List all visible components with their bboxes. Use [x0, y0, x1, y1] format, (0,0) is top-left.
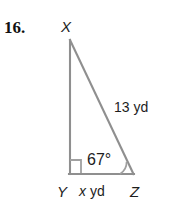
vertex-label-x: X — [61, 19, 71, 34]
vertex-label-y: Y — [57, 184, 67, 199]
base-unit-text: yd — [90, 183, 105, 199]
vertex-label-z: Z — [130, 184, 139, 199]
problem-figure-page: 16. X Y Z 13 yd x yd 67° — [0, 0, 169, 217]
base-length-label: x yd — [79, 184, 105, 198]
base-variable: x — [79, 183, 86, 199]
problem-number: 16. — [4, 19, 25, 36]
angle-arc-icon — [120, 162, 127, 174]
angle-measure-label: 67° — [87, 152, 111, 168]
hypotenuse-length-label: 13 yd — [114, 100, 148, 114]
right-angle-marker-icon — [70, 160, 81, 173]
